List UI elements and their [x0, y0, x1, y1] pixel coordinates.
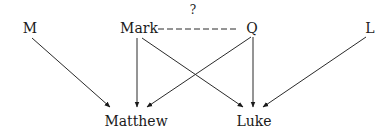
uncertain-label: ?	[190, 3, 196, 17]
edge-m-matthew	[32, 38, 110, 107]
node-q: Q	[246, 20, 257, 36]
node-m: M	[23, 20, 37, 36]
edge-mark-luke	[142, 38, 243, 107]
node-mark: Mark	[120, 20, 158, 36]
diagram-canvas	[0, 0, 392, 136]
node-luke: Luke	[236, 113, 271, 129]
edge-q-matthew	[147, 37, 251, 107]
edge-l-luke	[263, 37, 366, 107]
node-matthew: Matthew	[104, 113, 167, 129]
node-l: L	[365, 20, 374, 36]
